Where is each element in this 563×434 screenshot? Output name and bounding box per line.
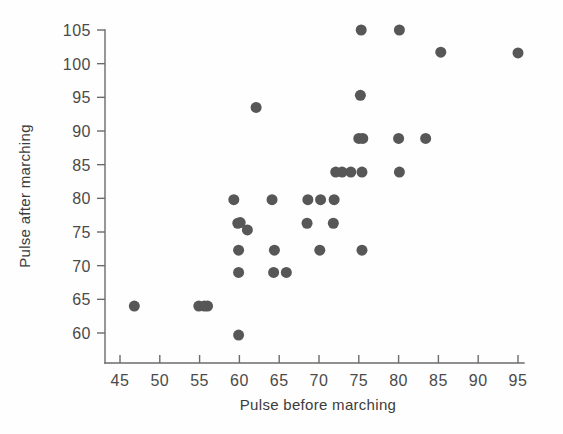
data-point — [302, 194, 313, 205]
y-tick-label: 105 — [63, 22, 91, 39]
x-tick-label: 75 — [349, 372, 368, 389]
x-tick-label: 45 — [111, 372, 130, 389]
data-point — [315, 194, 326, 205]
data-point — [199, 301, 210, 312]
x-axis-title: Pulse before marching — [240, 396, 396, 413]
data-point — [394, 167, 405, 178]
x-tick-label: 70 — [310, 372, 329, 389]
y-tick-label: 80 — [72, 190, 91, 207]
data-point — [129, 301, 140, 312]
data-point — [357, 133, 368, 144]
data-point — [435, 47, 446, 58]
x-tick-label: 50 — [150, 372, 169, 389]
data-point — [269, 245, 280, 256]
x-tick-label: 90 — [469, 372, 488, 389]
scatter-plot-figure: 4550556065707580859095 60657075808590951… — [0, 0, 563, 434]
data-point — [337, 167, 348, 178]
y-tick-label: 85 — [72, 157, 91, 174]
data-point — [394, 25, 405, 36]
x-tick-label: 55 — [190, 372, 209, 389]
y-tick-label: 95 — [72, 89, 91, 106]
x-tick-labels: 4550556065707580859095 — [111, 372, 528, 389]
x-tick-label: 95 — [509, 372, 528, 389]
data-point — [281, 267, 292, 278]
y-tick-label: 65 — [72, 291, 91, 308]
y-tick-label: 100 — [63, 56, 91, 73]
data-point — [228, 194, 239, 205]
x-tick-label: 65 — [270, 372, 289, 389]
x-tick-label: 85 — [429, 372, 448, 389]
y-tick-label: 75 — [72, 224, 91, 241]
data-point — [314, 245, 325, 256]
data-point — [302, 218, 313, 229]
data-point — [355, 90, 366, 101]
data-point — [356, 245, 367, 256]
y-tick-labels: 6065707580859095100105 — [63, 22, 91, 342]
plot-canvas: 4550556065707580859095 60657075808590951… — [0, 0, 563, 434]
data-point — [393, 133, 404, 144]
data-point — [233, 245, 244, 256]
data-point — [267, 194, 278, 205]
data-points — [129, 25, 524, 341]
x-tick-label: 60 — [230, 372, 249, 389]
data-point — [233, 330, 244, 341]
data-point — [328, 218, 339, 229]
data-point — [329, 194, 340, 205]
y-tick-label: 90 — [72, 123, 91, 140]
data-point — [233, 267, 244, 278]
data-point — [513, 47, 524, 58]
data-point — [235, 217, 246, 228]
y-axis-title: Pulse after marching — [16, 124, 33, 268]
data-point — [356, 167, 367, 178]
data-point — [420, 133, 431, 144]
data-point — [268, 267, 279, 278]
data-point — [251, 102, 262, 113]
x-tick-label: 80 — [389, 372, 408, 389]
y-tick-label: 60 — [72, 325, 91, 342]
data-point — [356, 25, 367, 36]
axes — [105, 30, 524, 363]
y-tick-label: 70 — [72, 258, 91, 275]
